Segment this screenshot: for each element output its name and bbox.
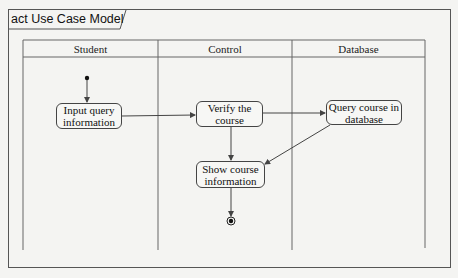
lane-database-title: Database (292, 41, 425, 57)
frame-title: act Use Case Model (9, 9, 138, 29)
action-label: Query course in database (327, 101, 401, 125)
flow-query-show (265, 125, 330, 164)
action-show-course-information[interactable]: Show course information (196, 161, 265, 188)
action-label: Verify the course (197, 102, 262, 126)
action-input-query-information[interactable]: Input query information (56, 103, 122, 129)
lane-student-title: Student (23, 41, 158, 57)
lane-control-title: Control (158, 41, 292, 57)
action-label: Show course information (197, 163, 264, 187)
action-label: Input query information (57, 104, 121, 128)
flow-input-verify (122, 115, 195, 116)
initial-node (85, 76, 89, 80)
action-query-course-in-database[interactable]: Query course in database (326, 100, 402, 125)
action-verify-the-course[interactable]: Verify the course (196, 101, 263, 127)
